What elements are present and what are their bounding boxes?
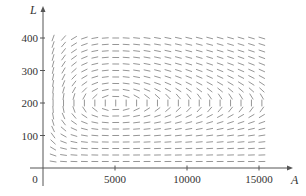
slope-segment xyxy=(217,44,223,46)
slope-segment xyxy=(51,133,55,138)
slope-segment xyxy=(228,115,233,118)
slope-segment xyxy=(249,88,253,92)
slope-segment xyxy=(134,108,139,111)
slope-segment xyxy=(249,69,254,71)
slope-segment xyxy=(208,107,212,112)
slope-segment xyxy=(249,50,255,52)
slope-segment xyxy=(102,64,108,65)
slope-segment xyxy=(61,134,66,137)
slope-segment xyxy=(165,57,171,58)
slope-segment xyxy=(207,50,213,52)
slope-segment xyxy=(186,70,192,72)
slope-segment xyxy=(165,82,171,84)
slope-segment xyxy=(165,63,171,64)
slope-segment xyxy=(196,122,202,124)
slope-segment xyxy=(83,94,86,99)
slope-segment xyxy=(62,42,66,47)
y-axis-arrow-icon xyxy=(41,6,46,12)
slope-field-segments xyxy=(50,35,265,162)
slope-segment xyxy=(102,57,108,58)
slope-segment xyxy=(176,94,180,99)
slope-segment xyxy=(186,88,191,91)
slope-segment xyxy=(208,94,211,99)
slope-segment xyxy=(228,142,234,143)
slope-segment xyxy=(176,70,182,72)
slope-segment xyxy=(155,44,161,45)
slope-segment xyxy=(228,57,234,59)
slope-segment xyxy=(92,135,98,136)
y-tick-label: 300 xyxy=(22,65,39,77)
slope-segment xyxy=(165,37,171,38)
slope-segment xyxy=(92,37,98,38)
slope-segment xyxy=(82,37,88,39)
slope-segment xyxy=(259,122,265,124)
slope-segment xyxy=(186,122,192,124)
slope-segment xyxy=(52,61,54,67)
slope-segment xyxy=(217,142,223,143)
slope-segment xyxy=(217,122,223,124)
slope-segment xyxy=(187,107,191,111)
slope-segment xyxy=(175,44,181,45)
slope-segment xyxy=(165,44,171,45)
slope-segment xyxy=(93,94,97,98)
slope-segment xyxy=(155,50,161,51)
slope-segment xyxy=(61,148,67,149)
slope-segment xyxy=(52,126,55,131)
slope-segment xyxy=(123,83,129,84)
slope-segment xyxy=(228,82,233,85)
slope-segment xyxy=(165,129,171,130)
slope-segment xyxy=(260,107,264,112)
slope-segment xyxy=(134,44,140,45)
slope-segment xyxy=(61,155,67,156)
slope-segment xyxy=(73,87,76,92)
slope-segment xyxy=(228,135,234,136)
slope-segment xyxy=(196,44,202,46)
slope-segment xyxy=(175,37,181,38)
slope-segment xyxy=(102,89,108,90)
slope-segment xyxy=(218,82,223,85)
slope-segment xyxy=(82,88,86,92)
slope-segment xyxy=(260,94,263,99)
slope-segment xyxy=(155,82,161,84)
slope-segment xyxy=(249,76,254,79)
slope-segment xyxy=(52,68,53,74)
slope-segment xyxy=(228,69,234,71)
slope-segment xyxy=(155,70,161,71)
y-axis-label: L xyxy=(29,3,37,17)
slope-segment xyxy=(259,56,265,58)
slope-segment xyxy=(72,121,77,124)
slope-segment xyxy=(238,44,244,46)
slope-segment xyxy=(176,107,180,111)
slope-segment xyxy=(260,88,264,92)
slope-segment xyxy=(92,82,98,84)
slope-segment xyxy=(165,89,170,92)
slope-segment xyxy=(238,57,244,59)
x-tick-label: 10000 xyxy=(173,173,201,185)
slope-segment xyxy=(144,63,150,64)
slope-segment xyxy=(196,63,202,65)
slope-segment xyxy=(72,81,76,86)
slope-segment xyxy=(238,115,243,118)
slope-segment xyxy=(207,57,213,59)
slope-segment xyxy=(186,63,192,65)
slope-segment xyxy=(134,57,140,58)
slope-segment xyxy=(92,44,98,45)
slope-segment xyxy=(249,44,255,46)
slope-segment xyxy=(197,82,202,85)
slope-segment xyxy=(217,69,223,71)
slope-segment xyxy=(92,108,97,112)
slope-segment xyxy=(134,70,140,71)
slope-segment xyxy=(238,69,244,71)
slope-segment xyxy=(228,63,234,65)
slope-segment xyxy=(82,75,87,78)
slope-segment xyxy=(176,82,181,85)
slope-segment xyxy=(186,50,192,52)
slope-segment xyxy=(82,63,87,65)
slope-segment xyxy=(238,135,244,136)
slope-segment xyxy=(71,43,76,46)
slope-segment xyxy=(165,135,171,136)
slope-segment xyxy=(259,135,265,136)
slope-segment xyxy=(71,141,77,142)
slope-segment xyxy=(53,87,54,93)
slope-segment xyxy=(207,76,212,78)
